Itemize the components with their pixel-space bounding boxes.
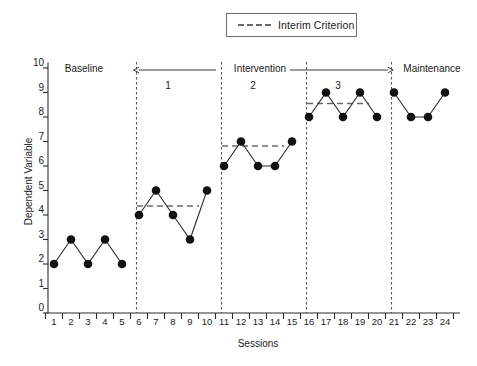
data-point — [356, 88, 365, 97]
y-axis-ticks — [43, 68, 48, 313]
data-point — [390, 88, 399, 97]
data-point — [271, 162, 280, 171]
data-point — [305, 113, 314, 122]
series-intervention-1 — [135, 186, 212, 244]
data-point — [254, 162, 263, 171]
interim-criterion-lines — [137, 104, 369, 207]
data-point — [424, 113, 433, 122]
series-maintenance — [390, 88, 450, 121]
data-point — [169, 211, 178, 220]
data-point — [50, 260, 59, 269]
data-point — [186, 235, 195, 244]
plot-canvas — [0, 0, 477, 366]
data-point — [373, 113, 382, 122]
x-axis-ticks — [46, 313, 454, 319]
series-intervention-2 — [220, 137, 297, 170]
data-point — [237, 137, 246, 146]
data-point — [203, 186, 212, 195]
data-point — [322, 88, 331, 97]
data-point — [407, 113, 416, 122]
series-intervention-3 — [305, 88, 382, 121]
data-point — [339, 113, 348, 122]
series-baseline — [50, 235, 127, 268]
phase-divider-lines — [137, 62, 392, 313]
data-point — [118, 260, 127, 269]
data-point — [67, 235, 76, 244]
chart-figure: Interim Criterion Dependent Variable Ses… — [0, 0, 477, 366]
data-point — [152, 186, 161, 195]
data-point — [220, 162, 229, 171]
axis-lines — [48, 63, 461, 314]
data-point — [101, 235, 110, 244]
data-point — [441, 88, 450, 97]
data-point — [84, 260, 93, 269]
data-point — [135, 211, 144, 220]
data-point — [288, 137, 297, 146]
